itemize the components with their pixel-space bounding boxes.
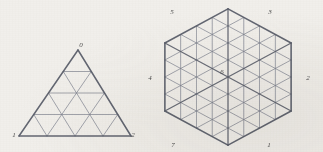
- label-hexagon-5: 5: [170, 8, 174, 16]
- label-hexagon-2: 2: [306, 74, 310, 82]
- vertex-label-layer: 0 1 2 5 3 2 1 7 4 6: [0, 0, 323, 152]
- label-hexagon-1: 1: [267, 141, 271, 149]
- label-hexagon-6: 6: [220, 68, 224, 76]
- label-left-triangle-0: 0: [79, 41, 83, 49]
- label-left-triangle-2: 2: [131, 131, 135, 139]
- label-hexagon-4: 4: [148, 74, 152, 82]
- label-hexagon-7: 7: [171, 141, 175, 149]
- label-hexagon-3: 3: [267, 8, 272, 16]
- figure-canvas: 0 1 2 5 3 2 1 7 4 6: [0, 0, 323, 152]
- label-left-triangle-1: 1: [12, 131, 16, 139]
